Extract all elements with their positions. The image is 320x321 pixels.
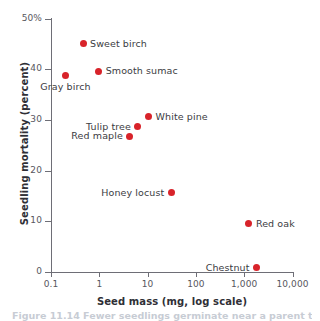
data-point-label: Sweet birch (90, 39, 147, 49)
data-point (80, 40, 87, 47)
data-point (62, 72, 69, 79)
data-point-label: Chestnut (206, 263, 250, 273)
data-point (253, 264, 260, 271)
x-tick-mark (293, 272, 294, 277)
x-tick-mark (51, 272, 52, 277)
x-axis-title: Seed mass (mg, log scale) (51, 296, 293, 307)
x-tick-label: 10,000 (263, 279, 320, 289)
y-tick-label: 50% (0, 13, 42, 23)
data-point-label: Red oak (256, 219, 295, 229)
x-tick-mark (99, 272, 100, 277)
data-point (95, 68, 102, 75)
data-point (245, 220, 252, 227)
figure-caption: Figure 11.14 Fewer seedlings germinate n… (12, 311, 312, 321)
data-point-label: Honey locust (101, 188, 164, 198)
y-tick-label: 0 (0, 266, 42, 276)
data-point (168, 189, 175, 196)
y-tick-mark (45, 19, 51, 20)
data-point-label: Red maple (71, 131, 123, 141)
data-point-label: Gray birch (40, 82, 90, 92)
data-point (134, 123, 141, 130)
y-tick-mark (45, 69, 51, 70)
scatter-chart-figure: 01020304050% 0.11101001,00010,000 Sweet … (0, 0, 320, 321)
data-point (126, 133, 133, 140)
data-point-label: White pine (156, 112, 208, 122)
figure-caption-text: Figure 11.14 Fewer seedlings germinate n… (12, 311, 312, 321)
x-tick-mark (148, 272, 149, 277)
y-axis-title: Seedling mortality (percent) (19, 44, 30, 244)
data-point (145, 113, 152, 120)
y-tick-mark (45, 120, 51, 121)
y-tick-mark (45, 171, 51, 172)
x-axis-line (51, 272, 293, 273)
data-point-label: Smooth sumac (106, 66, 178, 76)
y-axis-line (51, 18, 52, 273)
y-tick-mark (45, 221, 51, 222)
x-tick-mark (196, 272, 197, 277)
